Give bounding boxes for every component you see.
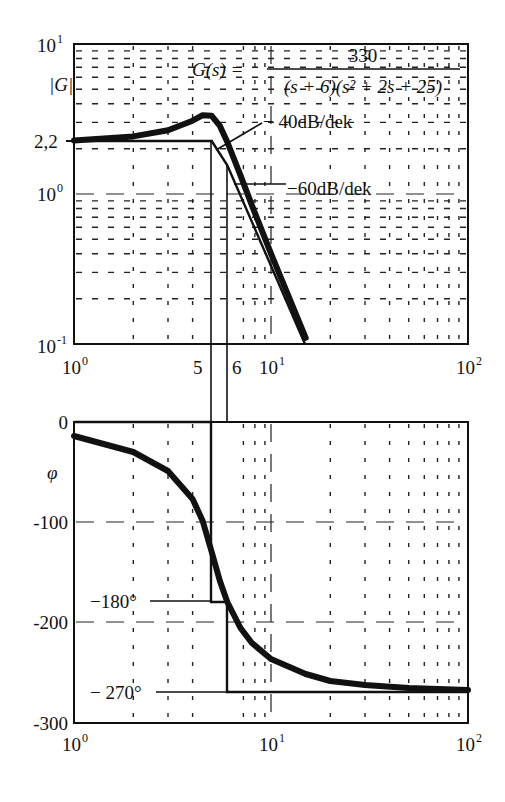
svg-text:1: 1 <box>57 32 63 46</box>
svg-text:0: 0 <box>57 181 63 195</box>
svg-text:-1: -1 <box>57 333 67 347</box>
magnitude-y-tick-top: 10 1 <box>37 32 63 56</box>
annotation-40db: − 40dB/dek <box>263 111 353 132</box>
svg-text:10: 10 <box>62 357 81 378</box>
svg-text:1: 1 <box>279 731 285 745</box>
phase-x-tick-1: 10 0 <box>62 731 88 755</box>
phase-x-tick-100: 10 2 <box>456 731 482 755</box>
magnitude-x-tick-1: 10 0 <box>62 354 88 378</box>
svg-text:10: 10 <box>456 357 475 378</box>
svg-text:10: 10 <box>62 734 81 755</box>
bode-figure: G(s) = 330 (s + 6)(s² + 2s + 25) |G| 10 … <box>0 0 505 802</box>
phase-y-tick-minus-200: -200 <box>33 612 68 633</box>
svg-text:10: 10 <box>456 734 475 755</box>
magnitude-asymptote <box>74 141 305 344</box>
formula-numerator: 330 <box>349 45 378 66</box>
magnitude-ylabel: |G| <box>49 74 73 95</box>
svg-text:10: 10 <box>37 184 56 205</box>
annotation-270: − 270° <box>90 682 142 703</box>
frequency-markers <box>211 141 227 422</box>
svg-text:0: 0 <box>82 731 88 745</box>
phase-x-tick-10: 10 1 <box>259 731 285 755</box>
formula-denominator: (s + 6)(s² + 2s + 25) <box>284 76 442 98</box>
magnitude-x-tick-100: 10 2 <box>456 354 482 378</box>
x-marker-5: 5 <box>193 357 203 378</box>
svg-text:1: 1 <box>279 354 285 368</box>
phase-ylabel: φ <box>47 462 58 483</box>
svg-text:10: 10 <box>37 336 56 357</box>
magnitude-y-tick-bottom: 10 -1 <box>37 333 67 357</box>
phase-grid-vertical <box>133 424 459 721</box>
formula-lhs: G(s) = <box>192 59 243 81</box>
magnitude-x-tick-10: 10 1 <box>259 354 285 378</box>
svg-text:2: 2 <box>476 731 482 745</box>
svg-text:10: 10 <box>259 734 278 755</box>
special-y-label-2-2: 2,2 <box>34 131 58 152</box>
phase-plot <box>74 422 468 723</box>
phase-y-tick-0: 0 <box>59 412 69 433</box>
svg-text:0: 0 <box>82 354 88 368</box>
phase-y-tick-minus-100: -100 <box>33 512 68 533</box>
phase-y-tick-minus-300: -300 <box>33 713 68 734</box>
annotation-180: −180° <box>90 591 137 612</box>
svg-text:10: 10 <box>37 35 56 56</box>
magnitude-y-tick-mid: 10 0 <box>37 181 63 205</box>
svg-text:2: 2 <box>476 354 482 368</box>
svg-text:10: 10 <box>259 357 278 378</box>
annotation-60db: −60dB/dek <box>287 178 372 199</box>
x-marker-6: 6 <box>232 357 242 378</box>
